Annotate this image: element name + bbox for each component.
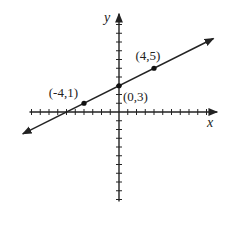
point-label: (-4,1) — [49, 85, 78, 100]
data-point — [151, 66, 156, 71]
y-axis-label: y — [102, 10, 111, 25]
point-label: (4,5) — [136, 48, 161, 63]
data-point — [116, 83, 121, 88]
axes — [30, 14, 218, 202]
x-axis-label: x — [206, 115, 214, 130]
point-label: (0,3) — [123, 89, 148, 104]
points: (-4,1)(0,3)(4,5) — [49, 48, 161, 106]
data-point — [81, 101, 86, 106]
coordinate-plane: (-4,1)(0,3)(4,5) x y — [0, 0, 232, 240]
